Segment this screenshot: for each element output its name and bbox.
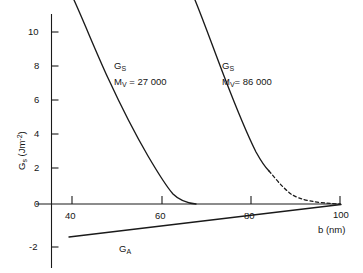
label-gs-86000-mv: MV= 86 000 <box>222 76 272 88</box>
plot-canvas <box>0 0 363 273</box>
x-tick-label-40: 40 <box>65 210 76 221</box>
label-gs-86000-m: M <box>222 76 230 87</box>
y-tick-label-0: 0 <box>34 198 39 209</box>
y-tick-marks <box>52 32 59 247</box>
label-ga-sub: A <box>126 248 131 255</box>
curve-gs-86000-dashed <box>269 171 340 204</box>
y-tick-label-8: 8 <box>34 60 39 71</box>
label-gs-27000-m: M <box>114 76 122 87</box>
chart-figure: 10 8 6 4 2 0 -2 40 60 80 100 Gs (Jm-2) b… <box>0 0 363 273</box>
label-gs-86000-value: = 86 000 <box>235 76 272 87</box>
x-tick-marks <box>72 196 340 204</box>
axes-group <box>36 14 341 268</box>
y-tick-label-2: 2 <box>34 162 39 173</box>
y-tick-label-minus2: -2 <box>29 241 37 252</box>
y-tick-label-10: 10 <box>28 26 39 37</box>
y-axis-title-open: (Jm <box>16 141 27 159</box>
y-axis-title-sub: s <box>21 159 28 163</box>
y-tick-label-4: 4 <box>34 128 39 139</box>
label-gs-86000-g-sub: S <box>229 65 234 72</box>
curve-ga <box>69 205 341 238</box>
data-curves <box>69 0 341 237</box>
label-ga: GA <box>119 243 131 255</box>
y-axis-title-close: ) <box>16 131 27 134</box>
label-gs-86000-symbol: GS <box>222 60 234 72</box>
x-tick-label-80: 80 <box>244 210 255 221</box>
x-axis-title: b (nm) <box>318 224 345 235</box>
y-tick-label-6: 6 <box>34 94 39 105</box>
y-axis-title: Gs (Jm-2) <box>16 131 28 170</box>
label-gs-27000-g-sub: S <box>121 65 126 72</box>
y-axis-title-exponent: -2 <box>16 134 23 140</box>
x-tick-label-100: 100 <box>333 209 349 220</box>
y-axis-title-main: G <box>16 163 27 170</box>
label-gs-27000-value: = 27 000 <box>127 76 167 87</box>
label-gs-27000-symbol: GS <box>114 60 126 72</box>
curve-gs-27000 <box>74 0 196 204</box>
label-gs-27000-mv: MV = 27 000 <box>114 76 166 88</box>
x-tick-label-60: 60 <box>155 210 166 221</box>
